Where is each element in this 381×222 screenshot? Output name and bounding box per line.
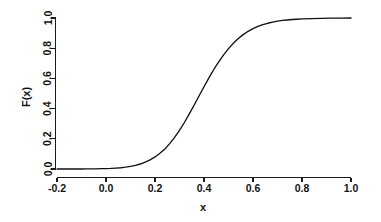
x-tick-label: 0.2 — [148, 182, 163, 194]
x-tick-label: 0.0 — [99, 182, 114, 194]
y-axis-tick-labels: 0.00.20.40.60.81.0 — [42, 11, 54, 177]
x-axis-tick-labels: -0.20.00.20.40.60.81.0 — [48, 182, 358, 194]
y-tick-label: 0.2 — [42, 131, 54, 146]
chart-plot-area: -0.20.00.20.40.60.81.0 0.00.20.40.60.81.… — [0, 0, 381, 222]
cdf-curve — [57, 18, 351, 169]
y-axis-title: F(x) — [20, 87, 32, 108]
y-tick-label: 0.0 — [42, 162, 54, 177]
x-tick-label: 0.6 — [246, 182, 261, 194]
x-tick-label: 1.0 — [344, 182, 359, 194]
x-axis: -0.20.00.20.40.60.81.0 — [48, 178, 358, 195]
y-tick-label: 0.8 — [42, 41, 54, 56]
y-axis: 0.00.20.40.60.81.0 — [42, 11, 56, 177]
x-axis-title: x — [200, 201, 207, 213]
x-tick-label: 0.8 — [295, 182, 310, 194]
y-tick-label: 1.0 — [42, 11, 54, 26]
y-tick-label: 0.4 — [42, 101, 54, 116]
cdf-line-chart: -0.20.00.20.40.60.81.0 0.00.20.40.60.81.… — [0, 0, 381, 222]
y-tick-label: 0.6 — [42, 71, 54, 86]
x-tick-label: -0.2 — [48, 182, 66, 194]
x-tick-label: 0.4 — [197, 182, 212, 194]
